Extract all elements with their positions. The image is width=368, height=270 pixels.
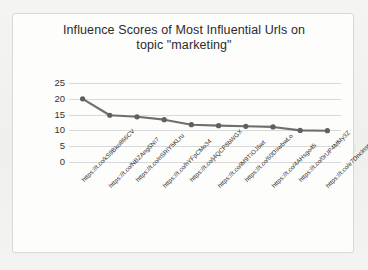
chart-title-line-2: topic "marketing" (27, 38, 341, 53)
y-axis-tick-label: 10 (54, 125, 65, 135)
data-point-marker (325, 128, 330, 133)
data-point-marker (162, 117, 167, 122)
chart-title: Influence Scores of Most Influential Url… (27, 23, 341, 53)
y-axis-tick-label: 25 (54, 78, 65, 88)
data-point-marker (134, 114, 139, 119)
chart-container: Influence Scores of Most Influential Url… (12, 13, 354, 253)
series-line (83, 99, 328, 131)
data-point-marker (243, 124, 248, 129)
y-axis-tick-label: 20 (54, 94, 65, 104)
y-axis-tick-label: 5 (60, 141, 65, 151)
data-point-marker (189, 122, 194, 127)
y-axis-tick-labels: 0510152025 (35, 76, 65, 169)
data-point-marker (216, 123, 221, 128)
data-point-marker (270, 124, 275, 129)
data-point-marker (80, 96, 85, 101)
y-axis-tick-label: 15 (54, 110, 65, 120)
x-axis-tick-labels: https://t.co/kS9Bko866CVhttps://t.co/NBZ… (13, 164, 355, 252)
chart-title-line-1: Influence Scores of Most Influential Url… (27, 23, 341, 38)
data-point-marker (107, 113, 112, 118)
data-point-marker (298, 128, 303, 133)
